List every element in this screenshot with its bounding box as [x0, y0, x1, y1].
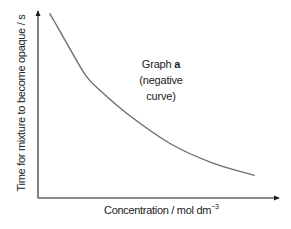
graph-annotation-title: Graph a: [126, 56, 196, 72]
x-axis-label: Concentration / mol dm−3: [104, 203, 219, 216]
chart-canvas: [0, 0, 291, 229]
graph-annotation-subtitle: (negative curve): [126, 72, 196, 104]
graph-letter: a: [174, 58, 180, 70]
y-axis-label: Time for mixture to become opaque / s: [15, 13, 27, 193]
graph-annotation: Graph a (negative curve): [126, 56, 196, 104]
x-axis-label-exponent: −3: [211, 203, 218, 210]
